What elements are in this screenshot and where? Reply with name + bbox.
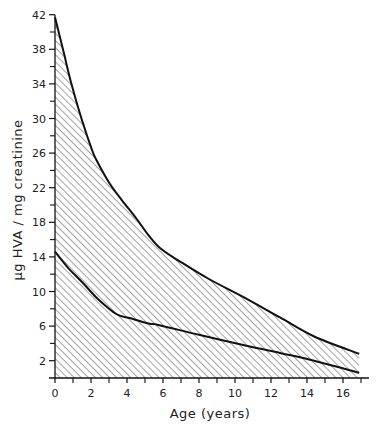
- y-tick-label: 14: [32, 251, 46, 264]
- x-tick-label: 10: [228, 387, 242, 400]
- x-tick-label: 16: [336, 387, 350, 400]
- x-tick-label: 14: [300, 387, 314, 400]
- y-tick-label: 2: [39, 355, 46, 368]
- y-tick-label: 22: [32, 182, 46, 195]
- y-tick-label: 26: [32, 147, 46, 160]
- y-tick-label: 30: [32, 113, 46, 126]
- y-tick-label: 10: [32, 286, 46, 299]
- y-axis-title: µg HVA / mg creatinine: [10, 119, 25, 280]
- hatched-range-area: [55, 17, 359, 378]
- chart-canvas: 26101418222630343842 0246810121416 Age (…: [0, 0, 381, 432]
- y-tick-label: 42: [32, 9, 46, 22]
- y-tick-label: 6: [39, 320, 46, 333]
- x-axis: 0246810121416: [49, 378, 369, 400]
- hatch-fill: [55, 17, 359, 378]
- y-tick-label: 34: [32, 78, 46, 91]
- x-tick-label: 6: [160, 387, 167, 400]
- x-tick-label: 0: [52, 387, 59, 400]
- y-tick-label: 18: [32, 216, 46, 229]
- y-axis: 26101418222630343842: [32, 9, 55, 378]
- x-tick-label: 12: [264, 387, 278, 400]
- x-tick-label: 4: [124, 387, 131, 400]
- y-tick-label: 38: [32, 43, 46, 56]
- x-axis-title: Age (years): [170, 406, 251, 421]
- x-tick-label: 2: [88, 387, 95, 400]
- x-tick-label: 8: [196, 387, 203, 400]
